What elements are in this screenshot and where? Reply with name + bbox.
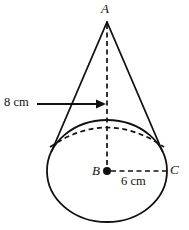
height-measurement-label: 8 cm — [4, 96, 29, 109]
apex-label-a: A — [101, 2, 109, 15]
radius-measurement-label: 6 cm — [121, 175, 146, 188]
cone-diagram: A B C 8 cm 6 cm — [0, 0, 189, 230]
base-edge-label-c: C — [170, 163, 179, 176]
cone-left-slant-edge — [52, 22, 108, 152]
cone-drawing — [0, 0, 189, 230]
base-center-dot — [103, 167, 111, 175]
base-center-label-b: B — [92, 164, 100, 177]
height-leader-arrowhead — [96, 100, 106, 109]
